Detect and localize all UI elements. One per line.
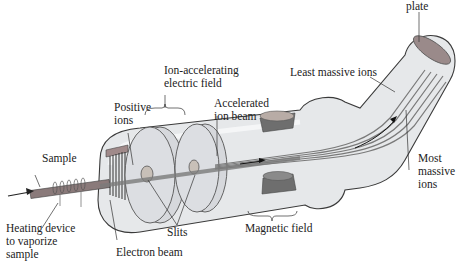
label-plate: plate bbox=[406, 0, 428, 13]
label-accelerated-ion-beam-2: ion beam bbox=[214, 110, 256, 123]
label-accelerated-ion-beam-1: Accelerated bbox=[214, 97, 269, 110]
label-heating-device-3: sample bbox=[6, 248, 39, 261]
label-most-massive-ions-3: ions bbox=[418, 178, 437, 191]
label-most-massive-ions-2: massive bbox=[418, 165, 455, 178]
label-heating-device-1: Heating device bbox=[6, 222, 75, 235]
label-positive-ions-2: ions bbox=[114, 114, 133, 127]
label-sample: Sample bbox=[42, 152, 77, 165]
label-electron-beam: Electron beam bbox=[116, 246, 183, 259]
label-slits: Slits bbox=[167, 226, 187, 239]
label-least-massive-ions: Least massive ions bbox=[290, 66, 377, 79]
label-ion-accelerating-field-1: Ion-accelerating bbox=[164, 64, 239, 77]
label-most-massive-ions-1: Most bbox=[418, 152, 442, 165]
sample-inlet-arrow bbox=[8, 188, 34, 196]
label-ion-accelerating-field-2: electric field bbox=[164, 77, 222, 90]
label-heating-device-2: to vaporize bbox=[6, 235, 57, 248]
label-magnetic-field: Magnetic field bbox=[245, 222, 312, 235]
label-positive-ions-1: Positive bbox=[114, 101, 151, 114]
